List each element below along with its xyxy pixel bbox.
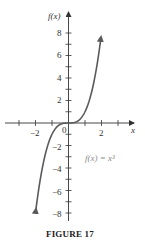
- x-tick-label-2: 2: [99, 128, 104, 138]
- function-label: f(x) = x³: [85, 153, 115, 163]
- cubic-function-graph: −2 0 2 8 6 4 2 −2 −4 −6 −8 f(x) x f(x) =…: [0, 0, 145, 244]
- x-tick-label-neg2: −2: [30, 128, 40, 138]
- y-tick-label-neg2: −2: [52, 142, 62, 152]
- y-tick-label-8: 8: [57, 28, 62, 38]
- y-tick-label-2: 2: [57, 95, 62, 105]
- x-tick-label-0: 0: [62, 125, 67, 135]
- y-tick-label-neg6: −6: [52, 187, 62, 197]
- y-tick-label-6: 6: [57, 50, 62, 60]
- figure-caption: FIGURE 17: [0, 229, 140, 239]
- x-axis-label: x: [130, 125, 135, 135]
- y-tick-label-4: 4: [57, 73, 62, 83]
- y-tick-label-neg8: −8: [52, 209, 62, 219]
- y-tick-label-neg4: −4: [52, 164, 62, 174]
- y-axis-label: f(x): [48, 11, 61, 21]
